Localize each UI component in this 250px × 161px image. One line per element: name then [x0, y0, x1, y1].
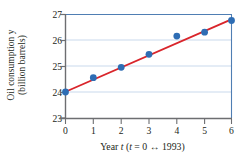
- x-tick-label-2: 2: [113, 126, 129, 136]
- x-tick-label-4: 4: [169, 126, 185, 136]
- x-tick-label-1: 1: [85, 126, 101, 136]
- x-tick-label-6: 6: [224, 126, 240, 136]
- x-tick-label-0: 0: [58, 126, 74, 136]
- x-axis-tick-labels: 0 1 2 3 4 5 6: [0, 0, 250, 161]
- x-axis-title: Year t (t = 0 ↔ 1993): [40, 141, 245, 152]
- x-axis-title-suffix: = 0 ↔ 1993): [132, 141, 185, 152]
- x-tick-label-3: 3: [141, 126, 157, 136]
- chart-figure: Oil consumption y (billion barrels) 27 2…: [0, 0, 250, 161]
- x-axis-title-prefix: Year: [100, 141, 121, 152]
- x-tick-label-5: 5: [197, 126, 213, 136]
